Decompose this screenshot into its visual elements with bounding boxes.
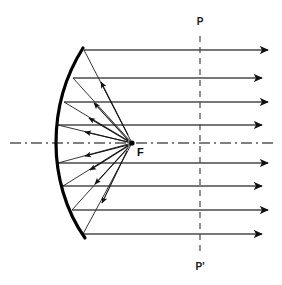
focal-plane-bottom-label: P'	[195, 261, 204, 272]
parabolic-mirror-figure: F P P'	[0, 0, 282, 285]
focal-plane-top-label: P	[197, 16, 204, 27]
focal-point-dot	[129, 140, 134, 145]
incident-arrow-7	[95, 148, 128, 184]
focal-point-label: F	[137, 146, 144, 158]
ray-diagram-canvas: F P P'	[0, 0, 282, 285]
incident-arrow-2	[94, 103, 128, 140]
incident-ray-2	[73, 78, 132, 143]
reflected-rays-group	[58, 50, 268, 234]
